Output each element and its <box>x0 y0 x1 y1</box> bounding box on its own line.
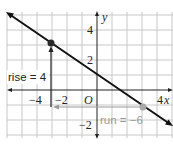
y-tick-4: 4 <box>87 23 93 37</box>
origin-label: O <box>84 93 93 107</box>
y-tick-2: 2 <box>87 53 93 67</box>
point-dark <box>48 40 55 47</box>
point-light <box>140 104 147 111</box>
x-tick-neg2: −2 <box>55 93 68 107</box>
x-tick-4: 4 <box>157 93 163 107</box>
coordinate-plane: −4 −2 O 4 x y 4 2 −2 rise = 4 run = −6 <box>0 0 173 144</box>
x-axis-label: x <box>163 93 170 107</box>
y-tick-neg2: −2 <box>79 118 92 132</box>
rise-label: rise = 4 <box>8 71 47 83</box>
run-label: run = −6 <box>100 114 143 126</box>
rise-arrow <box>49 46 54 107</box>
y-axis-label: y <box>101 10 108 24</box>
x-tick-neg4: −4 <box>29 93 42 107</box>
x-axis <box>7 88 173 92</box>
